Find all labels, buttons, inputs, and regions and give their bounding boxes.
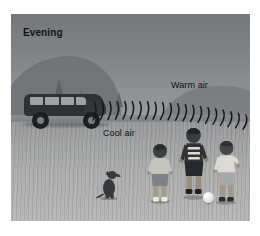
child-middle (177, 126, 211, 200)
minivan-wheel-rear (32, 112, 49, 129)
minivan-windshield (76, 97, 86, 105)
scene-plate: Evening Warm air Cool air (11, 14, 250, 221)
dog (93, 166, 127, 200)
child-left (145, 142, 175, 204)
soccer-ball (203, 192, 214, 203)
illustration-figure: Evening Warm air Cool air (0, 0, 260, 236)
label-evening: Evening (23, 27, 63, 38)
minivan-window (30, 97, 43, 105)
minivan-window (45, 97, 59, 105)
label-cool-air: Cool air (103, 128, 135, 138)
minivan-window (61, 97, 74, 105)
label-warm-air: Warm air (171, 80, 208, 90)
child-right (210, 139, 242, 205)
